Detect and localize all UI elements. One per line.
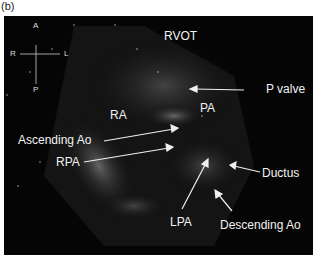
label-pa: PA (200, 102, 215, 114)
label-ductus: Ductus (262, 167, 299, 179)
orientation-right: R (10, 50, 16, 58)
label-ascending-ao: Ascending Ao (18, 134, 91, 146)
label-rvot: RVOT (164, 30, 197, 42)
label-p-valve: P valve (266, 83, 305, 95)
label-lpa: LPA (170, 216, 192, 228)
label-descending-ao: Descending Ao (220, 219, 301, 231)
orientation-anterior: A (33, 22, 38, 30)
echocardiogram-image: A P R L RVOT RA PA P valve Ascending Ao … (4, 16, 313, 255)
orientation-left: L (64, 50, 68, 58)
panel-label: (b) (1, 0, 14, 12)
orientation-posterior: P (33, 86, 38, 94)
label-ra: RA (110, 109, 127, 121)
label-rpa: RPA (56, 156, 80, 168)
